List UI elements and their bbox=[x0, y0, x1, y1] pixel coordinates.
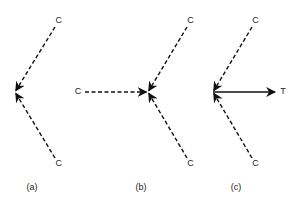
label-c-b-1: C bbox=[75, 86, 82, 96]
compression-arrow-c-1 bbox=[214, 93, 252, 158]
label-c-c-0: C bbox=[252, 15, 259, 25]
compression-arrow-b-2 bbox=[149, 93, 187, 158]
compression-arrow-c-0 bbox=[214, 27, 252, 91]
label-c-b-0: C bbox=[187, 15, 194, 25]
caption-b: (b) bbox=[136, 182, 147, 192]
compression-arrow-a-1 bbox=[16, 93, 55, 158]
label-c-a-1: C bbox=[55, 158, 62, 168]
force-diagram: CC(a)CCC(b)CCT(c) bbox=[0, 0, 302, 205]
caption-c: (c) bbox=[231, 182, 242, 192]
label-c-c-1: C bbox=[252, 158, 259, 168]
compression-arrow-b-0 bbox=[149, 27, 187, 91]
label-c-a-0: C bbox=[55, 15, 62, 25]
label-t-c: T bbox=[280, 86, 286, 96]
compression-arrow-a-0 bbox=[16, 27, 55, 91]
caption-a: (a) bbox=[27, 182, 38, 192]
label-c-b-2: C bbox=[187, 158, 194, 168]
